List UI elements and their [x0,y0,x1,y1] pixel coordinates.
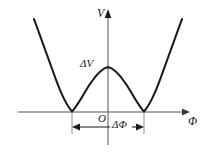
well-separation-label: ΔΦ [112,119,127,130]
potential-diagram-figure: V Φ ΔV ΔΦ O [0,0,206,158]
y-axis-group [105,9,112,145]
x-axis-label: Φ [188,115,197,127]
y-axis-label: V [97,7,104,19]
arrow-right-head-icon [136,123,144,130]
arrow-left-head-icon [72,123,80,130]
barrier-height-label: ΔV [80,58,93,69]
plot-canvas [0,0,206,158]
y-axis-arrowhead-icon [105,9,112,18]
origin-label: O [98,113,106,124]
